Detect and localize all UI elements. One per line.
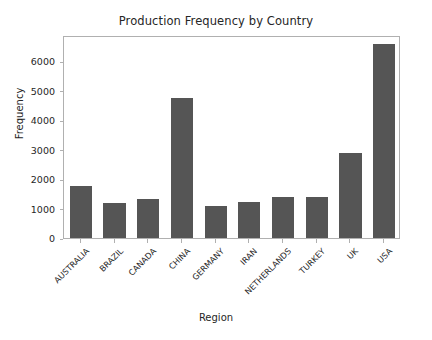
y-tick-label: 5000 [31,86,55,97]
x-tick-mark [215,239,216,243]
bar[interactable] [272,197,294,238]
x-tick-label: AUSTRALIA [52,246,91,285]
bar[interactable] [70,186,92,238]
bar[interactable] [137,199,159,238]
x-tick-label: TURKEY [297,246,327,276]
y-tick-label: 3000 [31,145,55,156]
x-tick-label: UK [345,246,360,261]
bar[interactable] [306,197,328,238]
x-tick-label: IRAN [239,246,260,267]
x-tick-mark [114,239,115,243]
y-axis-label: Frequency [14,59,25,169]
bar[interactable] [171,98,193,238]
x-tick-mark [282,239,283,243]
plot-area [63,36,400,239]
y-tick-label: 0 [49,233,55,244]
y-tick-label: 1000 [31,204,55,215]
bar[interactable] [238,202,260,238]
y-tick-label: 2000 [31,174,55,185]
x-tick-mark [80,239,81,243]
bar[interactable] [339,153,361,238]
y-tick-label: 6000 [31,56,55,67]
x-tick-mark [349,239,350,243]
x-tick-mark [383,239,384,243]
x-tick-label: CHINA [167,246,192,271]
y-tick-label: 4000 [31,115,55,126]
bar-series [64,37,399,238]
x-tick-label: USA [375,246,394,265]
x-tick-mark [248,239,249,243]
x-tick-label: CANADA [127,246,159,278]
bar-chart-figure: Production Frequency by Country 01000200… [0,0,432,340]
x-tick-mark [147,239,148,243]
x-tick-label: BRAZIL [97,246,125,274]
bar[interactable] [103,203,125,238]
x-axis-label: Region [0,312,432,323]
bar[interactable] [205,206,227,238]
chart-title: Production Frequency by Country [0,14,432,28]
bar[interactable] [373,44,395,238]
x-tick-mark [316,239,317,243]
x-tick-label: GERMANY [190,246,226,282]
x-tick-mark [181,239,182,243]
